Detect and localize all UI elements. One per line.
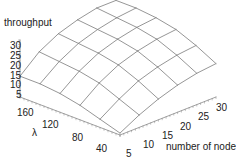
y-axis-label: λ <box>32 128 37 138</box>
x-tick-10: 10 <box>143 140 154 150</box>
surface-line <box>79 71 99 83</box>
x-tick-5: 5 <box>126 149 132 159</box>
surface-line <box>158 55 177 67</box>
surface-line <box>177 46 196 56</box>
surface-line <box>78 30 97 44</box>
surface-line <box>119 99 139 115</box>
surface-line <box>137 27 157 39</box>
y-tick-160: 160 <box>17 108 34 118</box>
surface-line <box>59 62 79 72</box>
x-tick-15: 15 <box>162 131 173 141</box>
surface-line <box>117 8 136 18</box>
surface-line <box>138 81 158 99</box>
surface-line <box>98 53 118 65</box>
surface-line <box>137 18 156 28</box>
x-tick-20: 20 <box>180 122 191 132</box>
surface-line <box>177 55 197 73</box>
surface-line <box>39 34 58 52</box>
surface-line <box>78 20 98 30</box>
surface-line <box>197 64 216 74</box>
surface-line <box>156 18 176 30</box>
surface-line <box>59 43 78 61</box>
surface-line <box>116 0 136 8</box>
surface-line <box>138 39 157 51</box>
surface-line <box>58 20 77 34</box>
surface-line <box>118 51 137 65</box>
surface-line <box>178 73 197 85</box>
surface-line <box>60 94 80 106</box>
surface-line <box>176 30 196 46</box>
surface-line <box>98 30 118 40</box>
surface-line <box>97 8 117 18</box>
surface-line <box>58 34 78 44</box>
surface-line <box>100 99 119 119</box>
surface-line <box>158 67 178 85</box>
surface-line <box>118 39 138 51</box>
surface-line <box>196 46 216 64</box>
surface-line <box>157 39 177 55</box>
surface-line <box>158 85 177 99</box>
y-tick-120: 120 <box>42 120 59 130</box>
surface-line <box>99 83 119 99</box>
surface-line <box>98 18 117 30</box>
surface-line <box>99 65 118 83</box>
x-axis-label: number of nodes <box>166 142 236 152</box>
surface-line <box>78 43 98 53</box>
y-tick-40: 40 <box>96 144 107 154</box>
surface-line <box>138 67 157 81</box>
x-tick-25: 25 <box>198 112 209 122</box>
surface-line <box>118 65 138 81</box>
surface-line <box>20 76 40 84</box>
surface-line <box>139 99 158 115</box>
surface-line <box>79 53 98 71</box>
surface-line <box>118 27 137 39</box>
surface-line <box>40 62 59 84</box>
surface-line <box>98 39 117 53</box>
surface-line <box>60 71 79 93</box>
z-tick-5: 5 <box>16 90 22 100</box>
surface-line <box>80 83 99 105</box>
surface-line <box>80 105 100 119</box>
y-tick-80: 80 <box>72 133 83 143</box>
surface-line <box>117 18 137 28</box>
x-tick-30: 30 <box>216 103 227 113</box>
surface-line <box>119 81 138 99</box>
surface-line <box>157 30 176 40</box>
z-axis-label: throughput <box>4 18 52 28</box>
surface-line <box>39 52 59 62</box>
surface-line <box>78 8 97 20</box>
surface-line <box>20 52 39 76</box>
surface-line <box>138 51 158 67</box>
surface-line <box>136 8 156 18</box>
surface-line <box>40 84 60 94</box>
surface-line <box>120 115 139 133</box>
surface-line <box>97 0 116 8</box>
